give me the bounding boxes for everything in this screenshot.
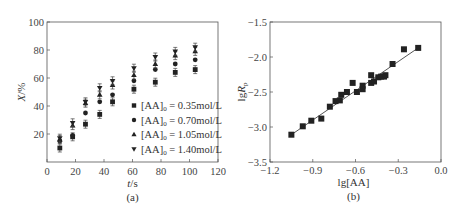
data-points xyxy=(288,45,421,138)
x-tick-label: −0.6 xyxy=(346,165,365,176)
x-tick-label: 0.0 xyxy=(434,165,447,176)
data-point-marker xyxy=(390,61,396,67)
x-tick-label: −0.3 xyxy=(389,165,408,176)
y-axis-label: lgRp xyxy=(235,82,249,101)
y-tick-label: −1.5 xyxy=(248,17,267,28)
x-axis-label: lg[AA] xyxy=(338,176,370,188)
chart-b-log-rate-vs-log-concentration: −1.2−0.9−0.6−0.30.0−3.5−3.0−2.5−2.0−1.5l… xyxy=(0,0,467,211)
data-point-marker xyxy=(338,92,344,98)
y-tick-label: −2.5 xyxy=(248,87,267,98)
data-point-marker xyxy=(350,80,356,86)
data-point-marker xyxy=(318,116,324,122)
data-point-marker xyxy=(327,104,333,110)
data-point-marker xyxy=(382,72,388,78)
panel-label-b: (b) xyxy=(347,190,360,203)
data-point-marker xyxy=(354,89,360,95)
data-point-marker xyxy=(368,72,374,78)
data-point-marker xyxy=(337,97,343,103)
data-point-marker xyxy=(415,45,421,51)
data-point-marker xyxy=(300,123,306,129)
data-point-marker xyxy=(288,132,294,138)
y-tick-label: −2.0 xyxy=(248,52,267,63)
data-point-marker xyxy=(308,118,314,124)
data-point-marker xyxy=(344,89,350,95)
y-tick-label: −3.0 xyxy=(248,122,267,133)
data-point-marker xyxy=(360,86,366,92)
x-tick-label: −0.9 xyxy=(303,165,322,176)
x-axis: −1.2−0.9−0.6−0.30.0 xyxy=(260,159,447,176)
y-axis: −3.5−3.0−2.5−2.0−1.5 xyxy=(248,17,273,168)
y-tick-label: −3.5 xyxy=(248,157,267,168)
data-point-marker xyxy=(401,46,407,52)
